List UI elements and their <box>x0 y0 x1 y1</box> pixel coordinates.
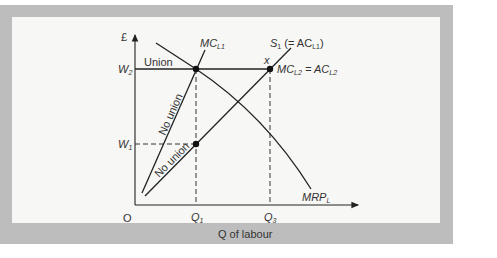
point-mc-union <box>193 66 199 72</box>
origin-label: O <box>123 212 132 224</box>
point-x <box>267 66 273 72</box>
y-axis-label: £ <box>121 31 127 43</box>
q3-label: Q3 <box>264 211 277 224</box>
w1-label: W1 <box>118 138 132 151</box>
mc-l1-label: MCL1 <box>200 37 225 50</box>
mc-l2-label: MCL2 = ACL2 <box>277 63 337 76</box>
point-w1-q1 <box>193 141 199 147</box>
x-axis-label: Q of labour <box>218 228 273 240</box>
point-x-label: x <box>263 54 270 66</box>
mrp-label: MRPL <box>302 191 330 204</box>
s1-label: S1 (= ACL1) <box>270 37 324 50</box>
union-label: Union <box>144 56 173 68</box>
diagram-canvas: £ O Q of labour W2 W1 Q1 Q3 Union x MCL1… <box>0 0 497 258</box>
no-union-lower-label: No union <box>152 140 192 180</box>
w2-label: W2 <box>118 63 132 76</box>
q1-label: Q1 <box>191 211 204 224</box>
